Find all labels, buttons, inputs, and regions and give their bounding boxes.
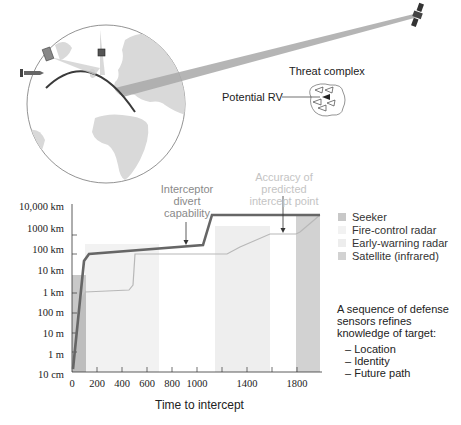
y-tick: 1 m	[0, 349, 64, 360]
y-tick: 100 km	[0, 244, 64, 255]
y-tick: 10 m	[0, 328, 64, 339]
legend: Seeker Fire-control radar Early-warning …	[338, 210, 448, 262]
y-tick: 10,000 km	[0, 201, 64, 212]
legend-swatch	[338, 226, 346, 234]
note-item: – Future path	[345, 367, 449, 379]
legend-swatch	[338, 239, 346, 247]
x-axis-title: Time to intercept	[155, 399, 244, 411]
legend-swatch	[338, 252, 346, 260]
y-tick: 1000 km	[0, 223, 64, 234]
chart	[72, 196, 322, 372]
x-tick: 1000	[182, 378, 212, 389]
band-satellite	[296, 214, 320, 372]
x-tick: 1400	[232, 378, 262, 389]
note-item: – Identity	[345, 355, 449, 367]
radar-dish-icon	[98, 49, 105, 56]
potential-rv-label: Potential RV	[222, 91, 283, 103]
legend-item-seeker: Seeker	[338, 210, 448, 223]
band-fire-control	[85, 244, 159, 372]
legend-item-early-warning-radar: Early-warning radar	[338, 236, 448, 249]
x-tick: 1800	[282, 378, 312, 389]
note-list: – Location – Identity – Future path	[337, 343, 449, 379]
threat-complex-icon	[282, 84, 345, 116]
legend-swatch	[338, 213, 346, 221]
y-tick: 1 km	[0, 287, 64, 298]
legend-item-fire-control-radar: Fire-control radar	[338, 223, 448, 236]
y-tick: 100 m	[0, 307, 64, 318]
accuracy-annotation: Accuracy of predicted intercept point	[245, 171, 323, 207]
legend-item-satellite: Satellite (infrared)	[338, 249, 448, 262]
sensor-note: A sequence of defense sensors refines kn…	[337, 303, 449, 379]
threat-complex-label: Threat complex	[289, 65, 365, 77]
band-early-warning	[215, 226, 270, 372]
note-item: – Location	[345, 343, 449, 355]
divert-annotation: Interceptor divert capability	[154, 183, 220, 219]
y-tick: 10 km	[0, 265, 64, 276]
y-tick: 10 cm	[0, 369, 64, 380]
